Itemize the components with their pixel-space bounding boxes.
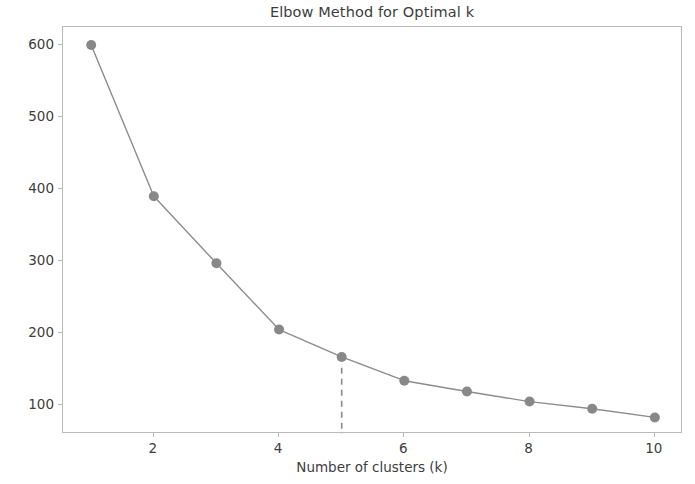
- y-axis-tick-mark: [58, 404, 62, 405]
- x-axis-tick-label: 4: [258, 440, 298, 456]
- y-axis-tick-mark: [58, 260, 62, 261]
- x-axis-tick-mark: [529, 433, 530, 437]
- y-axis-tick-mark: [58, 116, 62, 117]
- y-axis-tick-label: 400: [8, 180, 54, 196]
- y-axis-tick-label: 200: [8, 324, 54, 340]
- chart-figure: Elbow Method for Optimal k 1002003004005…: [0, 0, 695, 484]
- x-axis-tick-label: 6: [383, 440, 423, 456]
- y-axis-tick-label: 100: [8, 396, 54, 412]
- x-axis-tick-label: 2: [133, 440, 173, 456]
- x-axis-tick-mark: [654, 433, 655, 437]
- inertia-markers: [86, 40, 660, 422]
- plot-svg: [63, 27, 683, 434]
- y-axis-tick-label: 500: [8, 108, 54, 124]
- x-axis-tick-label: 8: [509, 440, 549, 456]
- x-axis-label: Number of clusters (k): [62, 459, 682, 475]
- data-point: [86, 40, 96, 50]
- data-point: [337, 352, 347, 362]
- data-point: [525, 397, 535, 407]
- x-axis-tick-label: 10: [634, 440, 674, 456]
- chart-title: Elbow Method for Optimal k: [62, 4, 682, 20]
- y-axis-tick-mark: [58, 332, 62, 333]
- y-axis-tick-mark: [58, 44, 62, 45]
- plot-area: [62, 26, 682, 433]
- x-axis-tick-mark: [153, 433, 154, 437]
- data-point: [399, 376, 409, 386]
- x-axis-tick-mark: [403, 433, 404, 437]
- y-axis-tick-label: 300: [8, 252, 54, 268]
- data-point: [211, 258, 221, 268]
- data-point: [587, 404, 597, 414]
- inertia-line: [91, 45, 655, 417]
- data-point: [650, 412, 660, 422]
- data-point: [274, 325, 284, 335]
- y-axis-tick-label: 600: [8, 36, 54, 52]
- y-axis-label: Inertia: [0, 194, 2, 238]
- data-point: [149, 191, 159, 201]
- data-point: [462, 387, 472, 397]
- y-axis-tick-mark: [58, 188, 62, 189]
- x-axis-tick-mark: [278, 433, 279, 437]
